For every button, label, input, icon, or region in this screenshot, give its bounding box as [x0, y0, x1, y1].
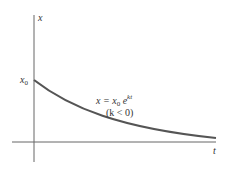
formula-exponent: kt — [127, 93, 132, 101]
initial-value-label: x0 — [20, 75, 28, 87]
formula-lhs: x = x — [96, 95, 117, 106]
x-axis-label: t — [213, 146, 216, 156]
y-axis-label: x — [38, 13, 42, 23]
formula: x = x0 ekt — [96, 94, 132, 108]
x0-subscript: 0 — [24, 79, 28, 87]
plot-canvas — [0, 0, 227, 169]
condition-label: (k < 0) — [106, 108, 133, 118]
